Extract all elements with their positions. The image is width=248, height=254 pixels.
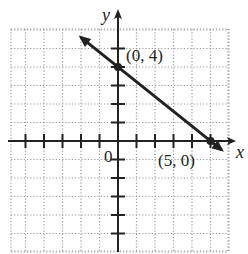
- origin-label: 0: [104, 147, 113, 166]
- coordinate-plane: y x 0 (0, 4) (5, 0): [0, 0, 248, 254]
- point-label-0-4: (0, 4): [126, 46, 163, 65]
- x-axis-label: x: [235, 142, 244, 162]
- point-label-5-0: (5, 0): [158, 151, 195, 170]
- y-axis-label: y: [100, 5, 110, 25]
- data-point: [114, 63, 122, 71]
- data-point: [207, 137, 215, 145]
